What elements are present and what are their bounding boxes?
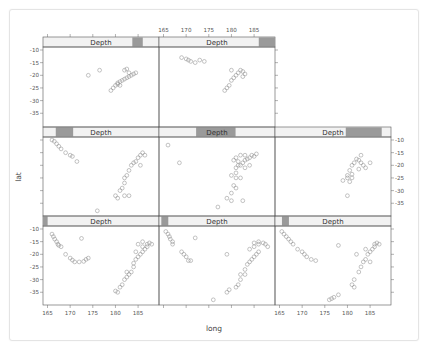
y-tick-label: -10 [30, 226, 40, 232]
panel-border [43, 137, 159, 216]
y-tick-label: -10 [30, 47, 40, 53]
strip-label: Depth [90, 129, 111, 137]
strip: Depth [43, 127, 159, 137]
x-axis: 165170175180185 [42, 305, 144, 316]
panel-r3-c3: Depth [275, 216, 391, 305]
strip: Depth [43, 216, 159, 226]
panels-group: DepthDepthDepthDepthDepthDepthDepthDepth [43, 37, 391, 305]
data-points [280, 230, 381, 302]
strip: Depth [43, 37, 159, 47]
panel-r2-c2: Depth [159, 127, 275, 216]
strip: Depth [275, 127, 391, 137]
panel-r2-c1: Depth [43, 127, 159, 216]
x-tick-label: 180 [342, 310, 353, 316]
panel-border [275, 137, 391, 216]
y-tick-label: -10 [395, 137, 405, 143]
x-tick-label: 185 [249, 27, 260, 33]
y-tick-label: -30 [30, 277, 40, 283]
data-points [50, 232, 154, 294]
y-tick-label: -20 [395, 162, 405, 168]
strip-label: Depth [90, 39, 111, 47]
y-tick-label: -35 [395, 200, 405, 206]
shingle-indicator [132, 37, 142, 46]
y-tick-label: -25 [30, 85, 40, 91]
lattice-xyplot: DepthDepthDepthDepthDepthDepthDepthDepth… [0, 0, 427, 349]
panel-r3-c1: Depth [43, 216, 159, 305]
x-tick-label: 185 [365, 310, 376, 316]
y-axis: -10-15-20-25-30-35 [391, 137, 405, 206]
x-axis [48, 34, 139, 37]
panel-r3-c2: Depth [159, 216, 275, 305]
y-tick-label: -25 [395, 175, 405, 181]
panel-border [159, 47, 275, 127]
shingle-indicator [346, 127, 382, 136]
y-tick-label: -15 [30, 60, 40, 66]
panel-border [43, 226, 159, 305]
y-tick-label: -20 [30, 72, 40, 78]
x-tick-label: 170 [181, 27, 192, 33]
shingle-indicator [161, 216, 168, 225]
strip-label: Depth [322, 129, 343, 137]
data-points [180, 56, 247, 93]
panel-border [43, 47, 159, 127]
data-points [341, 153, 372, 197]
y-axis [40, 140, 43, 203]
y-tick-label: -20 [30, 251, 40, 257]
panel-r2-c3: Depth [275, 127, 391, 216]
shingle-indicator [43, 216, 48, 225]
x-tick-label: 165 [274, 310, 285, 316]
x-tick-label: 180 [226, 27, 237, 33]
x-tick-label: 175 [203, 27, 214, 33]
y-axis: -10-15-20-25-30-35 [30, 226, 43, 295]
y-axis: -10-15-20-25-30-35 [30, 47, 43, 116]
x-tick-label: 165 [42, 310, 53, 316]
panel-border [275, 226, 391, 305]
data-points [166, 143, 258, 209]
strip: Depth [159, 127, 275, 137]
y-tick-label: -35 [30, 289, 40, 295]
strip-label: Depth [206, 218, 227, 226]
strip-label: Depth [206, 39, 227, 47]
shingle-indicator [56, 127, 73, 136]
data-points [86, 67, 137, 92]
y-axis-title: lat [14, 172, 23, 182]
shingle-indicator [282, 216, 289, 225]
data-points [164, 230, 270, 302]
y-tick-label: -35 [30, 110, 40, 116]
strip-label: Depth [322, 218, 343, 226]
strip: Depth [275, 216, 391, 226]
y-tick-label: -30 [30, 98, 40, 104]
x-axis [164, 305, 255, 308]
x-axis: 165170175180185 [274, 305, 376, 316]
y-axis [275, 50, 278, 113]
panel-border [159, 137, 275, 216]
x-tick-label: 185 [133, 310, 144, 316]
data-points [50, 138, 147, 213]
y-tick-label: -30 [395, 188, 405, 194]
x-tick-label: 180 [110, 310, 121, 316]
y-tick-label: -15 [395, 150, 405, 156]
strip-label: Depth [206, 129, 227, 137]
panel-border [159, 226, 275, 305]
x-tick-label: 175 [87, 310, 98, 316]
x-tick-label: 170 [297, 310, 308, 316]
strip: Depth [159, 37, 275, 47]
strip: Depth [159, 216, 275, 226]
x-tick-label: 175 [319, 310, 330, 316]
x-axis-title: long [206, 324, 222, 333]
y-axis [391, 229, 394, 292]
y-tick-label: -15 [30, 239, 40, 245]
y-tick-label: -25 [30, 264, 40, 270]
strip-label: Depth [90, 218, 111, 226]
x-tick-label: 165 [158, 27, 169, 33]
shingle-indicator [259, 37, 275, 46]
panel-r1-c2: Depth [159, 37, 275, 127]
x-tick-label: 170 [65, 310, 76, 316]
x-axis: 165170175180185 [158, 27, 260, 37]
panel-r1-c1: Depth [43, 37, 159, 127]
